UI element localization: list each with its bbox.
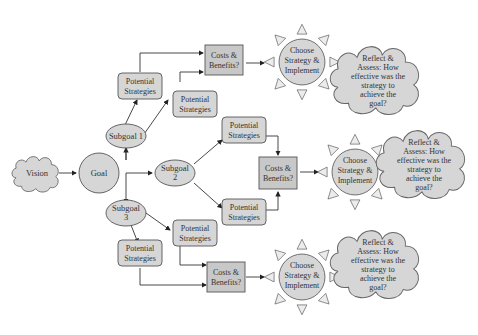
potential-strategies-1b: Potential Strategies — [173, 91, 217, 117]
svg-text:Costs &: Costs & — [213, 268, 240, 277]
svg-text:Potential: Potential — [126, 244, 155, 253]
svg-text:Potential: Potential — [181, 95, 210, 104]
svg-text:Reflect &: Reflect & — [362, 54, 394, 63]
svg-text:effective was the: effective was the — [351, 256, 405, 265]
svg-text:Reflect &: Reflect & — [408, 138, 440, 147]
choose-3-line2: Strategy & — [285, 271, 321, 280]
svg-text:Potential: Potential — [230, 203, 259, 212]
svg-text:goal?: goal? — [415, 183, 433, 192]
potential-strategies-2a: Potential Strategies — [222, 117, 266, 143]
subgoal-3-label-2: 3 — [124, 212, 128, 222]
choose-2-line3: Implement — [338, 176, 373, 185]
svg-text:Benefits?: Benefits? — [263, 174, 294, 183]
svg-text:Potential: Potential — [126, 77, 155, 86]
svg-text:strategy to: strategy to — [361, 81, 395, 90]
svg-text:achieve the: achieve the — [360, 90, 397, 99]
choose-1-line2: Strategy & — [285, 56, 321, 65]
costs-benefits-1: Costs & Benefits? — [205, 45, 243, 75]
potential-strategies-1a: Potential Strategies — [118, 73, 162, 99]
choose-1-line3: Implement — [285, 66, 320, 75]
potential-strategies-3a: Potential Strategies — [118, 240, 162, 266]
choose-2-line2: Strategy & — [338, 166, 374, 175]
goal-strategy-diagram: Vision Goal Subgoal 1 Subgoal 2 Subgoal … — [0, 0, 478, 335]
svg-text:Strategies: Strategies — [228, 131, 260, 140]
subgoal-1-label: Subgoal 1 — [109, 131, 143, 141]
choose-3-line3: Implement — [285, 281, 320, 290]
svg-text:Benefits?: Benefits? — [211, 278, 242, 287]
svg-text:goal?: goal? — [369, 99, 387, 108]
svg-text:Reflect &: Reflect & — [362, 238, 394, 247]
potential-strategies-3b: Potential Strategies — [173, 220, 217, 246]
svg-text:goal?: goal? — [369, 283, 387, 292]
goal-label: Goal — [91, 168, 108, 178]
svg-text:Potential: Potential — [181, 224, 210, 233]
choose-1-line1: Choose — [290, 46, 314, 55]
svg-text:strategy to: strategy to — [361, 265, 395, 274]
choose-2-line1: Choose — [343, 156, 367, 165]
potential-strategies-2b: Potential Strategies — [222, 199, 266, 225]
svg-text:Costs &: Costs & — [265, 164, 292, 173]
svg-text:Assess: How: Assess: How — [357, 63, 399, 72]
svg-text:achieve the: achieve the — [406, 174, 443, 183]
costs-benefits-2: Costs & Benefits? — [259, 157, 297, 189]
svg-text:Strategies: Strategies — [124, 254, 156, 263]
svg-text:effective was the: effective was the — [351, 72, 405, 81]
svg-text:Potential: Potential — [230, 121, 259, 130]
vision-label: Vision — [26, 168, 49, 178]
svg-text:effective was the: effective was the — [397, 156, 451, 165]
choose-3-line1: Choose — [290, 261, 314, 270]
svg-text:Strategies: Strategies — [179, 234, 211, 243]
svg-text:Strategies: Strategies — [228, 213, 260, 222]
svg-text:Assess: How: Assess: How — [357, 247, 399, 256]
svg-text:Strategies: Strategies — [179, 105, 211, 114]
subgoal-2-label-2: 2 — [173, 172, 177, 182]
svg-text:Benefits?: Benefits? — [209, 61, 240, 70]
svg-text:Costs &: Costs & — [211, 51, 238, 60]
svg-text:strategy to: strategy to — [407, 165, 441, 174]
svg-text:achieve the: achieve the — [360, 274, 397, 283]
svg-text:Assess: How: Assess: How — [403, 147, 445, 156]
svg-text:Strategies: Strategies — [124, 87, 156, 96]
costs-benefits-3: Costs & Benefits? — [207, 262, 245, 292]
